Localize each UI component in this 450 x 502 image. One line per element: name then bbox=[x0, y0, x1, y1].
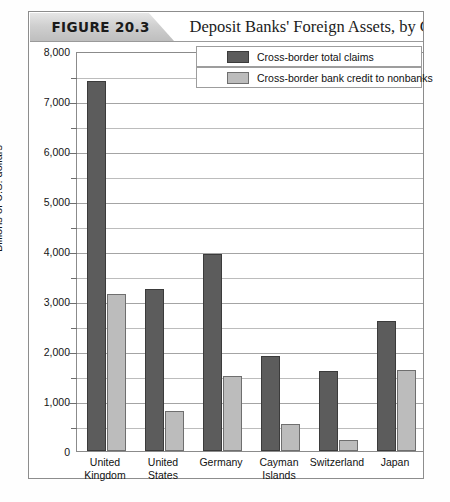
y-axis-title: Billions of U.S. dollars bbox=[0, 145, 4, 252]
y-tick-major bbox=[68, 253, 77, 254]
figure-number: FIGURE 20.3 bbox=[52, 19, 150, 35]
y-axis-tick-label: 7,000 bbox=[44, 96, 70, 108]
figure-header: FIGURE 20.3 Deposit Banks' Foreign Asset… bbox=[30, 13, 423, 42]
bar-group bbox=[77, 53, 135, 451]
bar bbox=[223, 376, 242, 451]
bar bbox=[281, 424, 300, 452]
y-axis-tick-label: 5,000 bbox=[44, 196, 70, 208]
legend-swatch-total-claims bbox=[227, 51, 249, 63]
bar bbox=[87, 81, 106, 451]
bar bbox=[261, 356, 280, 451]
x-axis-labels: UnitedKingdomUnitedStatesGermanyCaymanIs… bbox=[76, 456, 424, 490]
header-divider bbox=[30, 41, 423, 42]
bar bbox=[397, 370, 416, 451]
bar-group bbox=[135, 53, 193, 451]
y-tick-major bbox=[68, 353, 77, 354]
figure-title: Deposit Banks' Foreign Assets, by Countr… bbox=[190, 17, 423, 37]
y-axis-tick-label: 1,000 bbox=[44, 396, 70, 408]
bar bbox=[165, 411, 184, 451]
bar-group bbox=[367, 53, 425, 451]
bar-group bbox=[309, 53, 367, 451]
y-axis-tick-label: 3,000 bbox=[44, 296, 70, 308]
bar-group bbox=[251, 53, 309, 451]
bar bbox=[339, 440, 358, 452]
bar bbox=[319, 371, 338, 451]
y-axis-labels: 01,0002,0003,0004,0005,0006,0007,0008,00… bbox=[0, 52, 70, 452]
y-tick-major bbox=[68, 403, 77, 404]
bar-series-container bbox=[77, 53, 423, 451]
legend-swatch-bank-credit bbox=[227, 72, 249, 84]
legend-label-1: Cross-border bank credit to nonbanks bbox=[257, 72, 433, 84]
y-axis-tick-label: 6,000 bbox=[44, 146, 70, 158]
y-tick-major bbox=[68, 153, 77, 154]
bar-group bbox=[193, 53, 251, 451]
y-tick-major bbox=[68, 103, 77, 104]
bar bbox=[377, 321, 396, 451]
chart-legend: Cross-border total claims Cross-border b… bbox=[196, 46, 422, 90]
plot-area bbox=[76, 52, 424, 452]
x-axis-category-label: Japan bbox=[360, 456, 430, 469]
legend-item-0: Cross-border total claims bbox=[196, 46, 422, 67]
y-axis-tick-label: 8,000 bbox=[44, 46, 70, 58]
figure-container: FIGURE 20.3 Deposit Banks' Foreign Asset… bbox=[0, 0, 450, 502]
bar bbox=[107, 294, 126, 452]
y-tick-major bbox=[68, 303, 77, 304]
y-axis-tick-label: 2,000 bbox=[44, 346, 70, 358]
bar bbox=[145, 289, 164, 452]
legend-item-1: Cross-border bank credit to nonbanks bbox=[196, 67, 422, 88]
y-tick-major bbox=[68, 203, 77, 204]
y-axis-tick-label: 4,000 bbox=[44, 246, 70, 258]
bar bbox=[203, 254, 222, 452]
legend-label-0: Cross-border total claims bbox=[257, 51, 374, 63]
